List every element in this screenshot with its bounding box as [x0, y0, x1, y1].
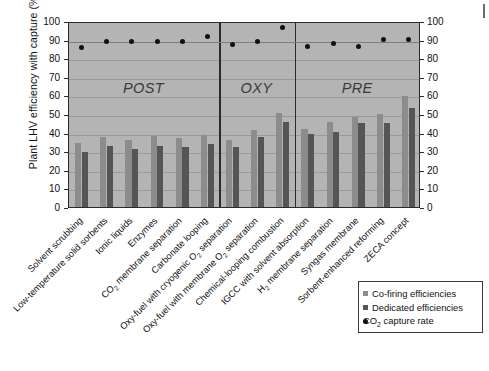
gridline [69, 153, 419, 154]
bar-dedicated [409, 108, 415, 208]
y-tick-label-left: 60 [34, 91, 60, 101]
bar-cofiring [251, 130, 257, 207]
y-tick-left [64, 115, 68, 116]
y-tick-right [420, 22, 424, 23]
capture-rate-marker [230, 42, 235, 47]
bar-cofiring [201, 135, 207, 207]
bar-dedicated [107, 146, 113, 207]
capture-rate-marker [356, 44, 361, 49]
y-tick-left [64, 171, 68, 172]
y-tick-label-right: 20 [427, 166, 453, 176]
bar-dedicated [358, 123, 364, 207]
capture-rate-marker [104, 39, 109, 44]
y-tick-label-right: 0 [427, 203, 453, 213]
y-tick-left [64, 96, 68, 97]
legend: Co-firing efficienciesDedicated efficien… [358, 281, 483, 333]
capture-rate-marker [129, 39, 134, 44]
y-tick-left [64, 78, 68, 79]
legend-swatch-icon [363, 291, 368, 296]
y-tick-right [420, 115, 424, 116]
y-tick-right [420, 208, 424, 209]
gridline [69, 172, 419, 173]
bar-dedicated [384, 123, 390, 207]
y-tick-label-right: 100 [427, 17, 453, 27]
gridline [69, 60, 419, 61]
section-label-pre: PRE [342, 80, 373, 96]
y-tick-label-right: 80 [427, 54, 453, 64]
y-tick-label-left: 0 [34, 203, 60, 213]
bar-dedicated [233, 147, 239, 207]
section-divider [219, 23, 221, 207]
y-tick-right [420, 59, 424, 60]
bar-dedicated [157, 146, 163, 207]
y-tick-left [64, 134, 68, 135]
section-label-post: POST [123, 80, 164, 96]
bar-dedicated [182, 147, 188, 207]
capture-rate-marker [255, 39, 260, 44]
y-tick-label-left: 90 [34, 36, 60, 46]
y-tick-label-left: 100 [34, 17, 60, 27]
capture-rate-marker [79, 45, 84, 50]
capture-rate-marker [205, 34, 210, 39]
bar-dedicated [333, 132, 339, 207]
plot-area [68, 22, 420, 208]
y-tick-left [64, 22, 68, 23]
y-tick-label-right: 60 [427, 91, 453, 101]
legend-item: Co-firing efficiencies [363, 286, 477, 300]
y-tick-label-right: 40 [427, 129, 453, 139]
y-tick-label-right: 90 [427, 36, 453, 46]
legend-item-label: CO2 capture rate [363, 315, 434, 328]
gridline [69, 97, 419, 98]
y-tick-left [64, 152, 68, 153]
bar-dedicated [283, 122, 289, 207]
capture-rate-marker [305, 44, 310, 49]
y-tick-label-right: 30 [427, 147, 453, 157]
legend-item-label: Dedicated efficiencies [372, 302, 463, 313]
gridline [69, 190, 419, 191]
y-tick-label-left: 80 [34, 54, 60, 64]
bar-dedicated [308, 134, 314, 207]
y-tick-left [64, 189, 68, 190]
chart-figure: Plant LHV efficiency with capture (%) CO… [0, 0, 489, 371]
bar-cofiring [125, 140, 131, 207]
bar-cofiring [226, 140, 232, 207]
y-tick-left [64, 59, 68, 60]
y-tick-label-right: 10 [427, 184, 453, 194]
y-tick-label-left: 20 [34, 166, 60, 176]
y-tick-right [420, 78, 424, 79]
y-tick-label-left: 40 [34, 129, 60, 139]
bar-cofiring [402, 96, 408, 207]
bar-dedicated [82, 152, 88, 207]
y-tick-left [64, 208, 68, 209]
legend-item: Dedicated efficiencies [363, 300, 477, 314]
gridline [69, 135, 419, 136]
bar-cofiring [100, 137, 106, 207]
section-label-oxy: OXY [241, 80, 273, 96]
bar-dedicated [258, 137, 264, 207]
bar-dedicated [132, 149, 138, 207]
y-tick-right [420, 189, 424, 190]
bar-dedicated [208, 144, 214, 207]
capture-rate-marker [331, 41, 336, 46]
y-tick-right [420, 171, 424, 172]
capture-rate-marker [155, 39, 160, 44]
y-tick-label-right: 70 [427, 73, 453, 83]
legend-item: CO2 capture rate [363, 314, 477, 328]
legend-swatch-icon [363, 305, 368, 310]
corner-tick-mark [483, 4, 485, 18]
bar-cofiring [276, 113, 282, 207]
bar-cofiring [151, 136, 157, 207]
capture-rate-guide-line [69, 42, 419, 43]
y-tick-label-right: 50 [427, 110, 453, 120]
y-tick-label-left: 10 [34, 184, 60, 194]
capture-rate-marker [280, 25, 285, 30]
y-tick-left [64, 41, 68, 42]
y-tick-right [420, 134, 424, 135]
bar-cofiring [327, 122, 333, 207]
y-tick-right [420, 96, 424, 97]
bar-cofiring [377, 114, 383, 207]
bar-cofiring [176, 138, 182, 207]
bar-cofiring [352, 117, 358, 207]
bar-cofiring [301, 129, 307, 207]
legend-dot-icon [363, 319, 368, 324]
